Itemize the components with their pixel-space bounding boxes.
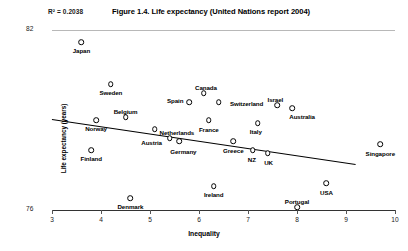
data-point[interactable] [216,99,222,105]
data-point[interactable] [231,138,237,144]
data-point-label: Italy [250,128,262,135]
x-tick-mark [248,210,249,214]
data-point-label: NZ [248,156,256,163]
data-point[interactable] [128,195,134,201]
data-point-label: Ireland [204,191,224,198]
data-point-label: Finland [81,155,102,162]
data-point-label: UK [264,159,273,166]
data-point-label: Portugal [285,198,309,205]
x-tick-label: 10 [391,216,398,223]
x-tick-label: 7 [246,216,250,223]
data-point[interactable] [275,102,281,108]
data-point[interactable] [152,126,158,132]
data-point-label: Norway [85,125,107,132]
data-point-label: Greece [223,147,243,154]
data-point[interactable] [177,138,183,144]
data-point-label: Australia [289,113,315,120]
x-tick-mark [199,210,200,214]
data-point-label: Israel [268,96,284,103]
y-axis-title: Life expectancy (years) [60,64,67,214]
data-point-label: Spain [167,97,183,104]
plot-area: Life expectancy (years) [52,30,395,210]
data-point[interactable] [289,105,295,111]
data-point[interactable] [79,39,85,45]
data-point[interactable] [93,117,99,123]
data-point-label: Germany [170,148,196,155]
data-point[interactable] [265,150,271,156]
data-point-label: Singapore [366,150,395,157]
data-point-label: Switzerland [230,100,263,107]
data-point-label: Denmark [118,203,144,210]
data-point-label: Japan [73,47,90,54]
data-point[interactable] [123,114,129,120]
data-point[interactable] [88,147,94,153]
data-point[interactable] [250,147,256,153]
data-point[interactable] [206,117,212,123]
data-point[interactable] [294,204,300,210]
data-point[interactable] [324,180,330,186]
data-point[interactable] [108,81,114,87]
chart-title: Figure 1.4. Life expectancy (United Nati… [112,7,310,16]
x-tick-mark [297,210,298,214]
data-point[interactable] [186,99,192,105]
x-axis-title: Inequality [0,230,408,237]
x-tick-mark [101,210,102,214]
x-axis-line [52,210,395,211]
x-tick-label: 3 [50,216,54,223]
data-point[interactable] [201,90,207,96]
x-tick-label: 4 [99,216,103,223]
y-axis-tick-max: 82 [26,25,33,32]
r-squared-annotation: R² = 0.2038 [48,8,83,15]
data-point-label: Netherlands [160,129,195,136]
x-tick-label: 9 [344,216,348,223]
x-tick-label: 8 [295,216,299,223]
data-point[interactable] [255,120,261,126]
x-tick-mark [346,210,347,214]
chart-figure: R² = 0.2038 Figure 1.4. Life expectancy … [0,0,408,251]
x-tick-mark [150,210,151,214]
data-point-label: Austria [141,139,162,146]
data-point-label: USA [320,189,333,196]
data-point-label: Sweden [99,89,122,96]
x-tick-mark [52,210,53,214]
data-point[interactable] [167,135,173,141]
x-tick-mark [395,210,396,214]
data-point-label: France [199,126,219,133]
data-point[interactable] [211,183,217,189]
data-point[interactable] [378,141,384,147]
data-point-label: Canada [195,84,217,91]
data-point-label: Belgium [114,108,138,115]
y-axis-tick-min: 76 [26,205,33,212]
x-tick-label: 5 [148,216,152,223]
x-tick-label: 6 [197,216,201,223]
